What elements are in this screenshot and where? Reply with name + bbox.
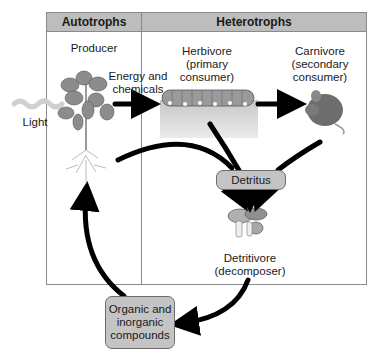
arrow-compounds-to-producer (85, 196, 124, 296)
mushroom-icon (228, 208, 267, 237)
arrow-producer-to-detritus (118, 144, 232, 168)
label-carnivore: Carnivore (secondary consumer) (283, 45, 357, 84)
arrow-detritus-to-detritivore-1 (237, 190, 241, 198)
label-energy-and-chemicals: Energy and chemicals (108, 70, 168, 96)
arrow-detritivore-to-compounds (184, 280, 248, 323)
label-producer: Producer (60, 42, 128, 55)
light-wave-icon (14, 101, 62, 107)
compounds-box: Organic and inorganic compounds (105, 296, 175, 349)
label-detritivore: Detritivore (decomposer) (210, 252, 290, 278)
label-light: Light (20, 116, 50, 129)
plant-icon (58, 71, 114, 182)
detritus-box: Detritus (216, 170, 286, 190)
mouse-icon (305, 90, 344, 134)
caterpillar-icon (160, 90, 258, 138)
arrow-carnivore-to-detritus (278, 142, 320, 170)
label-herbivore: Herbivore (primary consumer) (172, 45, 242, 84)
arrow-detritus-to-detritivore-3 (260, 190, 263, 198)
